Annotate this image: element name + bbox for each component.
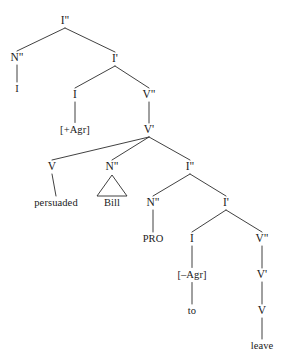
tree-node-bill: Bill [104, 198, 120, 209]
tree-edge [192, 210, 226, 232]
tree-edge [153, 174, 190, 196]
tree-node-i-head-emb: I [190, 233, 194, 245]
tree-edge [17, 28, 65, 51]
tree-node-to: to [188, 306, 196, 317]
tree-node-np-bill: N" [105, 161, 118, 173]
tree-edge [226, 210, 262, 232]
tree-node-leave: leave [251, 341, 274, 352]
tree-node-i-head-top: I [73, 89, 77, 101]
tree-node-pro: PRO [143, 234, 164, 245]
tree-node-np-subj: N" [10, 52, 23, 64]
tree-node-np-pro: N" [146, 197, 159, 209]
tree-node-ibar-top: I' [112, 53, 118, 65]
tree-node-i-pronoun: I [15, 84, 19, 95]
tree-node-agrplus: [+Agr] [60, 125, 90, 136]
tree-edge [65, 28, 115, 52]
tree-node-vp-top: V" [142, 89, 155, 101]
tree-edge [149, 137, 190, 160]
tree-node-v-embed: V [258, 305, 266, 317]
tree-edge [190, 174, 226, 196]
tree-triangle [97, 175, 127, 196]
tree-node-agrminus: [–Agr] [177, 270, 206, 281]
tree-node-ip-embed: I" [186, 161, 195, 173]
tree-node-ip-top: I" [61, 15, 70, 27]
tree-edge [115, 66, 149, 88]
tree-edge [112, 137, 149, 160]
tree-node-vbar-embed: V' [257, 269, 268, 281]
tree-node-vbar-top: V' [144, 124, 155, 136]
tree-edge [52, 174, 56, 196]
syntax-tree-figure: I"N"II'I[+Agr]V"V'VpersuadedN"BillI"N"PR… [0, 0, 284, 358]
tree-edge [75, 66, 115, 88]
tree-node-ibar-embed: I' [223, 197, 229, 209]
tree-node-persuaded: persuaded [34, 198, 77, 209]
tree-edge [52, 137, 149, 160]
tree-node-v-head: V [48, 161, 56, 173]
tree-edges-layer [0, 0, 284, 358]
tree-node-vp-embed: V" [255, 233, 268, 245]
